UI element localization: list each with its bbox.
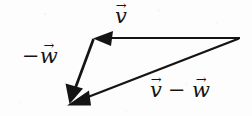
label-v-minus-w-left-symbol: → v xyxy=(150,78,162,101)
vector-v xyxy=(93,31,240,46)
label-v-minus-w-operator: − xyxy=(168,78,186,102)
label-negative-w-minus-sign: − xyxy=(22,44,40,68)
vector-accent-arrow-icon: → xyxy=(196,73,207,86)
vector-v-arrowhead xyxy=(93,31,113,46)
vector-accent-arrow-icon: → xyxy=(116,0,127,12)
label-negative-w-symbol: → w xyxy=(40,44,58,67)
label-vector-v-minus-w: → v − → w xyxy=(150,78,210,101)
label-v-minus-w-right-symbol: → w xyxy=(192,78,210,101)
label-vector-negative-w: − → w xyxy=(22,44,58,67)
label-vector-v: → v xyxy=(115,4,127,27)
vector-negative-w-shaft xyxy=(75,39,94,89)
vector-accent-arrow-icon: → xyxy=(44,39,55,52)
vector-accent-arrow-icon: → xyxy=(151,73,162,86)
label-vector-v-symbol: → v xyxy=(115,4,127,27)
vector-diagram-figure: → v − → w → v − → w xyxy=(0,0,252,116)
